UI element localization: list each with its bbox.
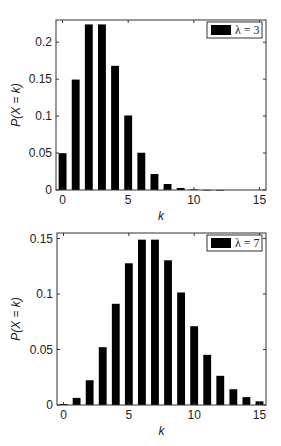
bar bbox=[99, 347, 107, 405]
bars bbox=[60, 240, 264, 405]
y-tick-label: 0 bbox=[46, 398, 53, 412]
x-tick-label: 0 bbox=[59, 193, 66, 207]
bar bbox=[229, 389, 237, 405]
poisson-chart-lambda-3: 05101500.050.10.150.2kP(X = k)λ = 3 bbox=[0, 0, 281, 220]
y-axis-label: P(X = k) bbox=[9, 83, 23, 127]
y-tick-label: 0.05 bbox=[29, 146, 53, 160]
bar bbox=[164, 184, 172, 190]
x-tick-label: 10 bbox=[187, 193, 201, 207]
legend-swatch bbox=[211, 25, 231, 35]
legend-swatch bbox=[211, 238, 231, 248]
y-tick-label: 0.1 bbox=[36, 287, 53, 301]
bar bbox=[72, 80, 80, 190]
bar bbox=[151, 174, 159, 190]
bar bbox=[164, 260, 172, 405]
bar bbox=[137, 153, 145, 190]
legend: λ = 7 bbox=[207, 235, 262, 251]
x-axis-label: k bbox=[158, 209, 165, 220]
bar bbox=[124, 116, 132, 191]
legend-label: λ = 7 bbox=[235, 236, 260, 250]
y-axis-label: P(X = k) bbox=[9, 297, 23, 341]
bar bbox=[85, 24, 93, 190]
x-tick-label: 10 bbox=[187, 408, 201, 422]
y-tick-label: 0.15 bbox=[29, 72, 53, 86]
y-tick-label: 0.15 bbox=[30, 232, 54, 246]
bar bbox=[111, 66, 119, 190]
y-tick-label: 0.1 bbox=[35, 109, 52, 123]
bars bbox=[59, 24, 224, 190]
bar bbox=[138, 240, 146, 405]
axes-frame bbox=[57, 233, 266, 405]
poisson-chart-lambda-7: 05101500.050.10.15kP(X = k)λ = 7 bbox=[0, 220, 281, 446]
legend: λ = 3 bbox=[207, 22, 262, 38]
bar bbox=[190, 326, 198, 405]
y-tick-label: 0 bbox=[45, 183, 52, 197]
legend-label: λ = 3 bbox=[235, 23, 260, 37]
x-tick-label: 0 bbox=[60, 408, 67, 422]
x-tick-label: 15 bbox=[253, 193, 267, 207]
bar bbox=[73, 398, 81, 405]
bar bbox=[125, 263, 133, 405]
x-tick-label: 5 bbox=[125, 193, 132, 207]
x-tick-label: 5 bbox=[126, 408, 133, 422]
bar bbox=[177, 292, 185, 405]
bar bbox=[98, 24, 106, 190]
y-tick-label: 0.2 bbox=[35, 35, 52, 49]
bar bbox=[203, 355, 211, 405]
x-tick-label: 15 bbox=[253, 408, 267, 422]
bar bbox=[216, 376, 224, 405]
y-tick-label: 0.05 bbox=[30, 343, 54, 357]
bar bbox=[242, 397, 250, 405]
bar bbox=[59, 153, 67, 190]
bar bbox=[151, 240, 159, 405]
bar bbox=[86, 380, 94, 405]
x-axis-label: k bbox=[159, 424, 166, 438]
bar bbox=[112, 304, 120, 405]
